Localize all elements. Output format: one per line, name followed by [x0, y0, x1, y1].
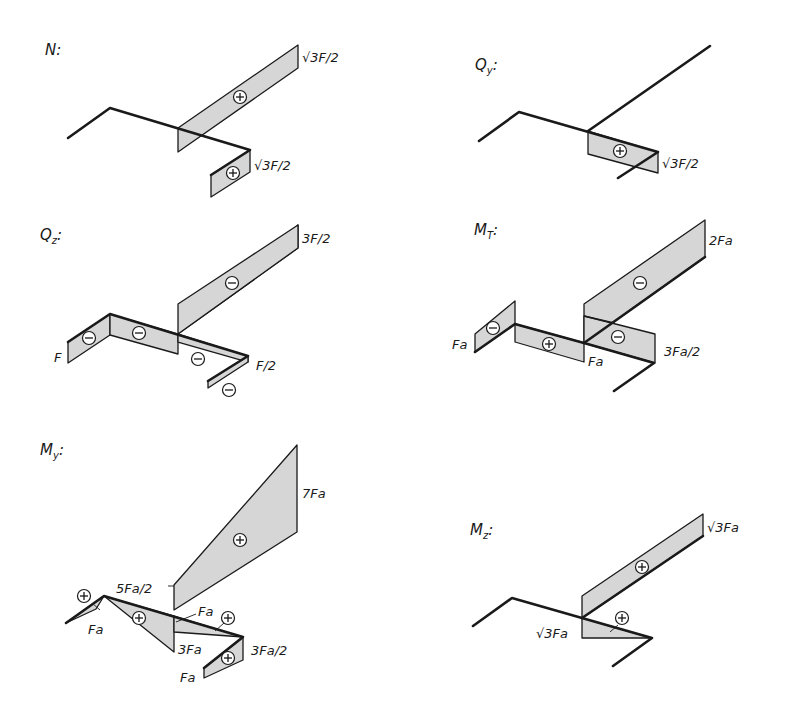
minus-sign-icon: [612, 331, 625, 344]
value-label: √3F/2: [662, 156, 699, 171]
value-label: √3F/2: [254, 158, 291, 173]
diagram-title: Qz:: [40, 226, 62, 246]
diagram-title: MT:: [474, 221, 498, 241]
plus-sign-icon: [133, 612, 146, 625]
frame-structure: [582, 536, 703, 618]
diagram-normal-force: N: √3F/2 √3F/2: [45, 41, 339, 197]
value-label: Fa: [452, 337, 467, 352]
value-label: 3Fa/2: [251, 643, 287, 658]
minus-sign-icon: [634, 277, 647, 290]
minus-sign-icon: [192, 353, 205, 366]
value-label: √3Fa: [707, 520, 739, 535]
diagram-bending-moment-z: Mz: √3Fa √3Fa: [470, 514, 739, 666]
internal-force-diagrams: N: √3F/2 √3F/2 Qy: √3F/2 Qz:: [0, 0, 797, 717]
diagram-shear-force-y: Qy: √3F/2: [475, 46, 710, 178]
value-label: Fa: [588, 354, 603, 369]
value-label: F/2: [256, 358, 276, 373]
plus-sign-icon: [227, 167, 240, 180]
diagram-title: Mz:: [470, 521, 493, 541]
minus-sign-icon: [226, 277, 239, 290]
frame-structure: [479, 112, 658, 178]
value-label: 7Fa: [302, 486, 326, 501]
value-label: Fa: [198, 604, 213, 619]
plus-sign-icon: [78, 590, 91, 603]
plus-sign-icon: [616, 612, 629, 625]
minus-sign-icon: [83, 332, 96, 345]
force-band-upper: [174, 445, 297, 610]
plus-sign-icon: [636, 561, 649, 574]
plus-sign-icon: [543, 338, 556, 351]
value-label: √3Fa: [536, 626, 568, 641]
frame-structure: [588, 46, 710, 131]
value-label: √3F/2: [302, 50, 339, 65]
value-label: 5Fa/2: [116, 581, 152, 596]
value-label: 3Fa: [178, 642, 202, 657]
value-label: F: [54, 350, 62, 365]
plus-sign-icon: [614, 145, 627, 158]
minus-sign-icon: [133, 327, 146, 340]
minus-sign-icon: [487, 322, 500, 335]
plus-sign-icon: [222, 652, 235, 665]
diagram-bending-moment-y: My: 7Fa 5Fa/2 Fa Fa 3Fa 3Fa/2 Fa: [40, 441, 326, 685]
value-label: Fa: [180, 670, 195, 685]
diagram-torsion-moment: MT: 2Fa Fa Fa 3Fa/2: [452, 220, 733, 391]
value-label: 3Fa/2: [664, 344, 700, 359]
plus-sign-icon: [234, 91, 247, 104]
diagram-title: My:: [40, 441, 64, 461]
plus-sign-icon: [234, 534, 247, 547]
diagram-title: N:: [45, 41, 61, 59]
minus-sign-icon: [223, 384, 236, 397]
value-label: 2Fa: [709, 233, 733, 248]
plus-sign-icon: [222, 612, 235, 625]
diagram-title: Qy:: [475, 56, 498, 76]
diagram-shear-force-z: Qz: 3F/2 F F/2: [40, 225, 330, 397]
value-label: Fa: [88, 622, 103, 637]
value-label: 3F/2: [302, 231, 330, 246]
